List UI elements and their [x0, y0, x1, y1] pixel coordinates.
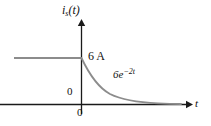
expression-base-text: 6e — [113, 68, 123, 80]
plot-canvas — [0, 0, 211, 126]
exponential-decay-curve — [82, 58, 182, 104]
y-axis-arrowhead — [78, 19, 85, 26]
expression-exponent: −2t — [123, 67, 135, 76]
origin-label-left: 0 — [67, 86, 73, 97]
t-axis-label: t — [195, 98, 198, 109]
current-source-waveform-figure: is(t) 6 A i_s(t) for t > 0 (decaying exp… — [0, 0, 211, 126]
exponential-expression-label: i_s(t) for t > 0 (decaying exponential)6… — [113, 68, 135, 80]
t-axis-arrowhead — [186, 101, 193, 108]
y-axis-label: is(t) — [62, 4, 80, 18]
y-axis-argument: (t) — [68, 3, 79, 17]
amplitude-label: 6 A — [88, 50, 105, 62]
origin-label-below: 0 — [77, 107, 83, 118]
